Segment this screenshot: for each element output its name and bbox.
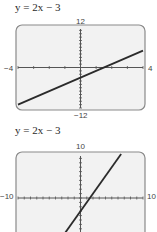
graphs-canvas xyxy=(0,0,157,232)
